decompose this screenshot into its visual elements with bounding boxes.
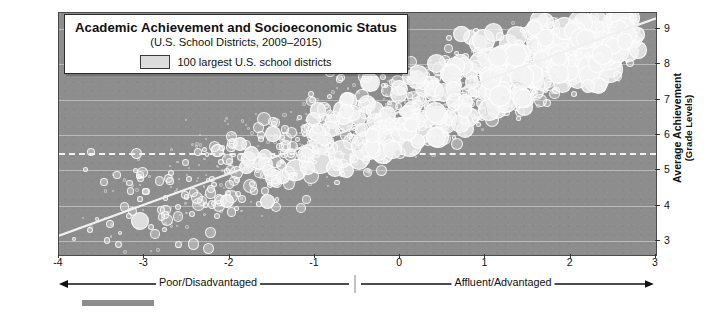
chart-subtitle: (U.S. School Districts, 2009–2015)	[65, 36, 407, 48]
y-tick-label: 9	[664, 22, 670, 34]
x-tick-label: 2	[567, 256, 573, 268]
y-tick-label: 8	[664, 57, 670, 69]
y-tick-mark	[655, 240, 660, 241]
y-tick-mark	[655, 169, 660, 170]
x-tick-label: 0	[396, 256, 402, 268]
y-axis-title-main: Average Achievement	[671, 73, 683, 183]
y-tick-mark	[655, 205, 660, 206]
x-tick-label: -1	[309, 256, 318, 268]
bubble-size-swatch	[140, 55, 170, 69]
x-tick-label: 1	[481, 256, 487, 268]
y-tick-label: 6	[664, 128, 670, 140]
page-footer-rule	[82, 300, 154, 306]
y-axis-title: Average Achievement (Grade Levels)	[671, 73, 694, 183]
legend: 100 largest U.S. school districts	[65, 55, 407, 69]
y-tick-label: 4	[664, 199, 670, 211]
x-tick-label: 3	[652, 256, 658, 268]
y-tick-mark	[655, 63, 660, 64]
affluent-advantaged-label: Affluent/Advantaged	[451, 276, 554, 288]
reference-line-dashed	[59, 153, 656, 155]
y-tick-mark	[655, 99, 660, 100]
x-tick-label: -3	[139, 256, 148, 268]
y-tick-label: 7	[664, 93, 670, 105]
y-tick-mark	[655, 134, 660, 135]
socioeconomic-axis-annotation: Poor/Disadvantaged Affluent/Advantaged	[58, 274, 655, 294]
y-axis-title-sub: (Grade Levels)	[683, 73, 694, 183]
poor-disadvantaged-label: Poor/Disadvantaged	[156, 276, 260, 288]
legend-label: 100 largest U.S. school districts	[177, 56, 331, 68]
x-tick-label: -2	[224, 256, 233, 268]
x-tick-label: -4	[53, 256, 62, 268]
y-tick-label: 5	[664, 163, 670, 175]
y-tick-label: 3	[664, 234, 670, 246]
title-legend-card: Academic Achievement and Socioeconomic S…	[64, 14, 408, 74]
chart-title: Academic Achievement and Socioeconomic S…	[65, 20, 407, 35]
y-tick-mark	[655, 28, 660, 29]
